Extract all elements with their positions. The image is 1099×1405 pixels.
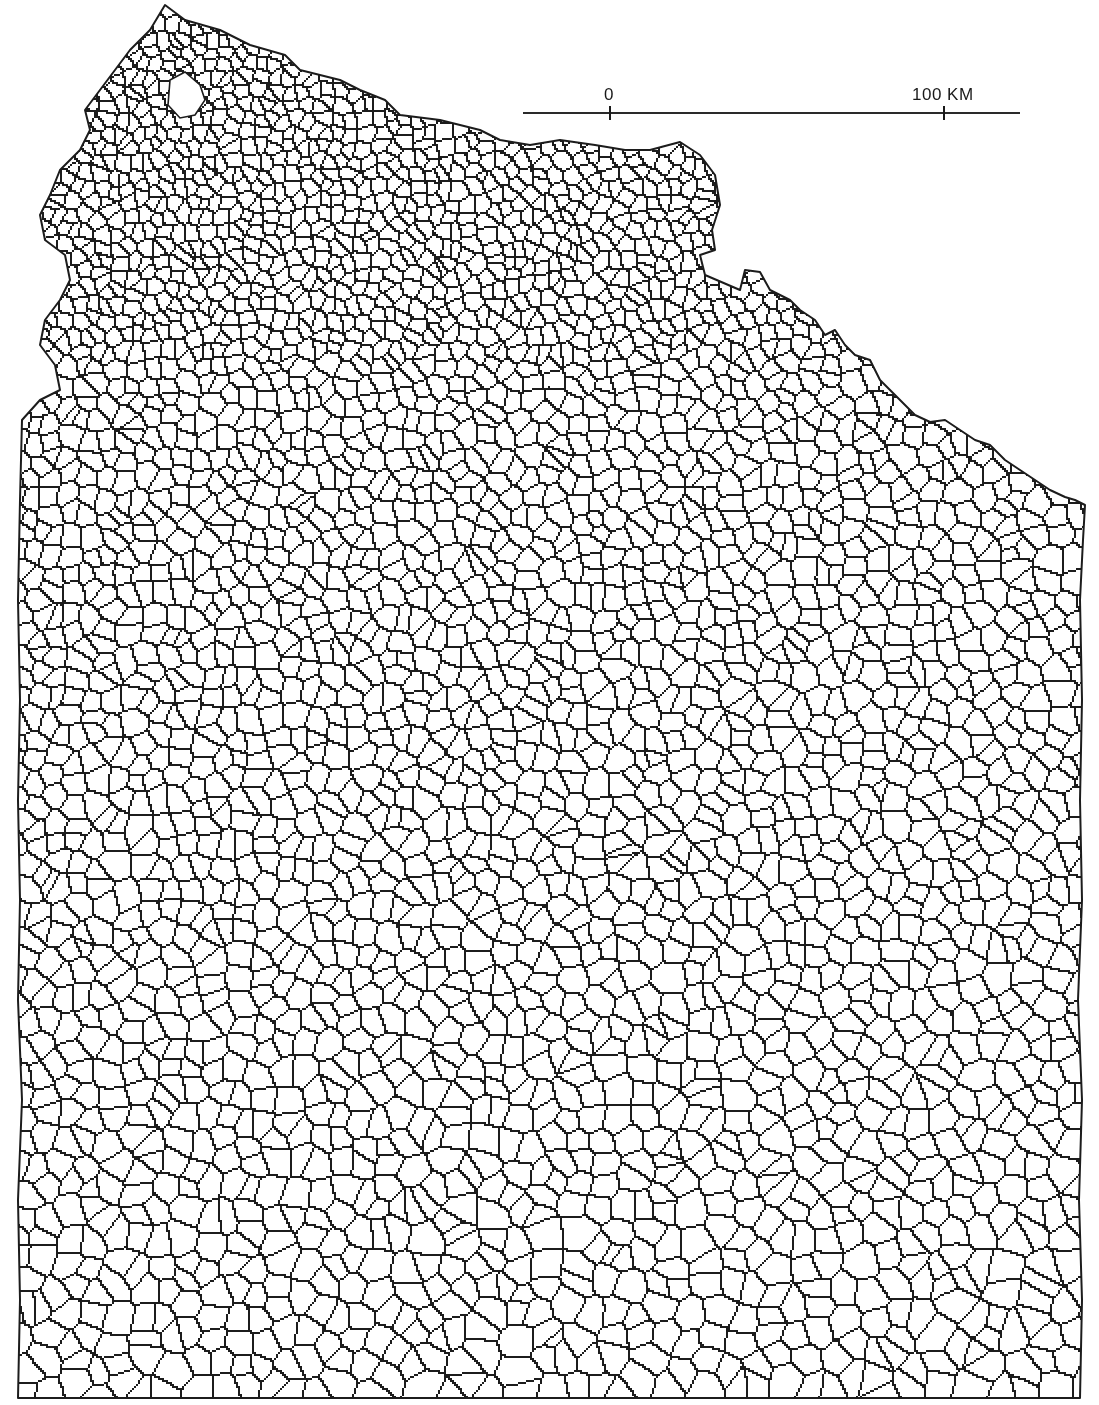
- commune-boundary-map: [0, 0, 1099, 1405]
